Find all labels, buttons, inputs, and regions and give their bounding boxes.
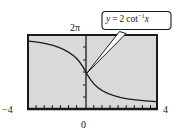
- callout-function: cot: [126, 14, 138, 24]
- x-axis-left-label: −4: [2, 105, 13, 115]
- x-axis-right-label-text: 4: [163, 104, 168, 115]
- callout-argument: x: [145, 14, 149, 24]
- x-axis-left-label-text: −4: [2, 104, 13, 115]
- x-axis-origin-label: 0: [81, 120, 86, 130]
- figure-container: 2π −4 4 0 y=2cot−1x: [0, 0, 177, 135]
- x-axis-origin-label-text: 0: [81, 119, 86, 130]
- callout-coefficient: 2: [120, 14, 125, 24]
- callout-equation: y=2cot−1x: [106, 15, 149, 25]
- callout-exponent: −1: [138, 12, 145, 19]
- y-axis-top-label: 2π: [70, 23, 80, 33]
- y-axis-top-label-text: 2π: [70, 22, 80, 33]
- plot-area-background: [28, 35, 157, 109]
- graph-canvas: [0, 0, 177, 135]
- callout-lhs: y: [106, 14, 110, 24]
- callout-equals: =: [112, 14, 117, 24]
- x-axis-right-label: 4: [163, 105, 168, 115]
